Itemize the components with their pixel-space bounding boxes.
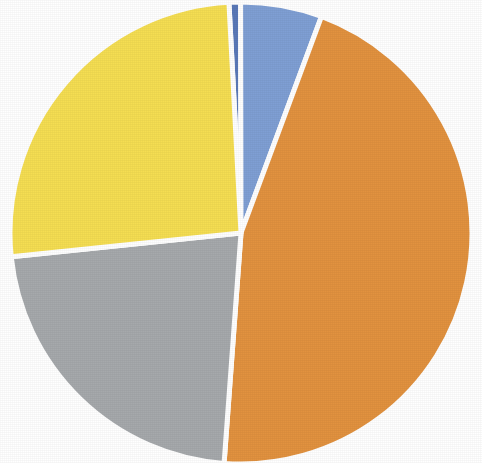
- pie-slices-group: Slice 1 0.8%Slice 2 5.7%Slice 3 45.5%Sli…: [10, 2, 472, 463]
- pie-chart-canvas: Slice 1 0.8%Slice 2 5.7%Slice 3 45.5%Sli…: [0, 0, 482, 463]
- pie-chart-figure: Slice 1 0.8%Slice 2 5.7%Slice 3 45.5%Sli…: [0, 0, 482, 463]
- pie-slice-4[interactable]: Slice 4 22.2%: [11, 233, 241, 463]
- pie-slice-5[interactable]: Slice 5 25.8%: [10, 2, 241, 256]
